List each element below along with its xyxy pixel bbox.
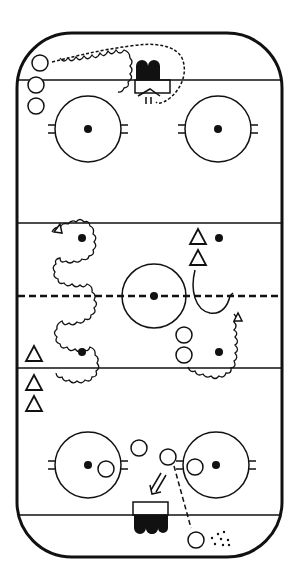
- rink-svg: [0, 0, 295, 580]
- neutral-dot: [215, 234, 223, 242]
- player-circle: [188, 532, 204, 548]
- faceoff-circle-top-left: [48, 96, 128, 162]
- center-dot: [150, 292, 158, 300]
- skate-path-left-s: [52, 220, 99, 383]
- skate-path-top: [52, 44, 184, 103]
- player-circle: [131, 440, 147, 456]
- player-circle: [98, 461, 114, 477]
- defense-players: [26, 229, 206, 411]
- pass-line: [174, 466, 191, 528]
- bottom-net-icon: [133, 502, 168, 534]
- faceoff-circle-bottom-left: [48, 432, 128, 498]
- shot-arrow-icon: [150, 473, 166, 494]
- skate-path-curve: [193, 270, 233, 313]
- player-triangle: [26, 346, 42, 361]
- player-circle: [176, 347, 192, 363]
- puck-pile-icon: [211, 531, 230, 546]
- player-triangle: [190, 250, 206, 265]
- skate-path-right-wave: [188, 314, 238, 379]
- player-circle: [32, 55, 48, 71]
- hockey-drill-diagram: [0, 0, 295, 580]
- arrowhead-right: [234, 313, 242, 321]
- faceoff-circle-top-right: [178, 96, 258, 162]
- player-circle: [187, 459, 203, 475]
- player-circle: [176, 327, 192, 343]
- player-triangle: [190, 229, 206, 244]
- player-circle: [160, 449, 176, 465]
- player-circle: [28, 77, 44, 93]
- neutral-dot: [78, 234, 86, 242]
- top-net-icon: [135, 60, 170, 104]
- neutral-dot: [215, 348, 223, 356]
- player-triangle: [26, 375, 42, 390]
- skate-path-top-wave: [60, 50, 132, 92]
- player-triangle: [26, 396, 42, 411]
- player-circle: [28, 98, 44, 114]
